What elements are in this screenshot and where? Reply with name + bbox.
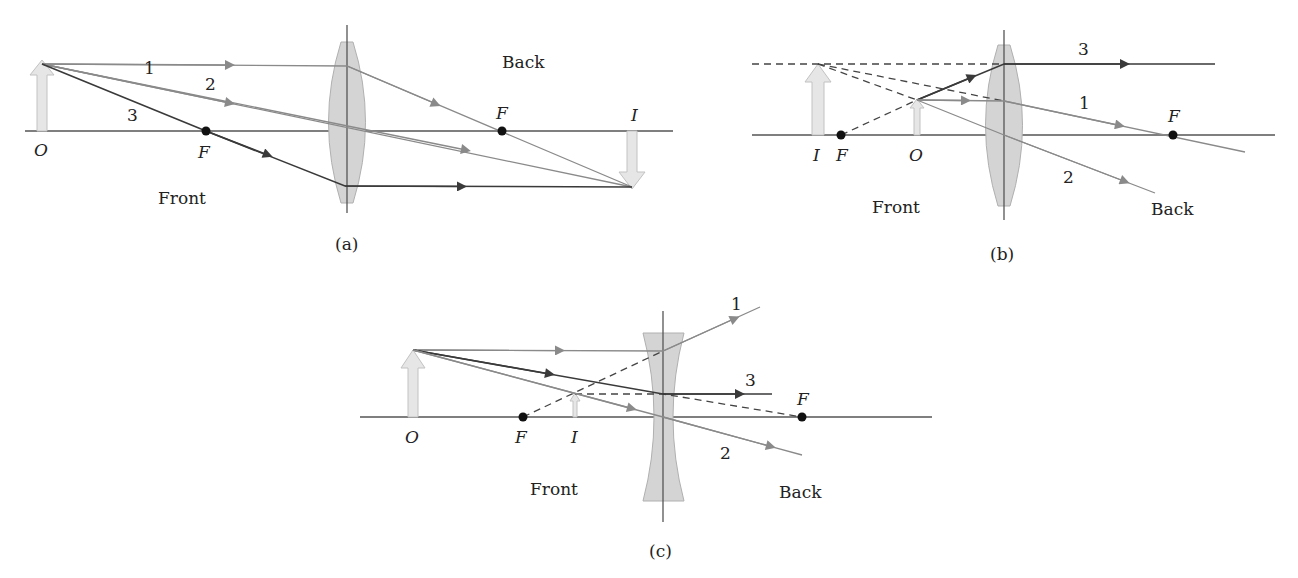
focal-label-front: F [835,145,849,165]
virtual-ray-extension [523,351,663,417]
ray-label-2: 2 [205,74,216,94]
focal-label-back: F [1167,106,1181,126]
object-arrow [910,99,924,135]
focal-point-front [519,413,528,422]
ray-1 [413,307,760,351]
focal-point-front [837,131,846,140]
object-label: O [405,427,419,447]
back-label: Back [779,482,822,502]
image-arrow [805,64,831,135]
focal-label-back: F [495,103,509,123]
ray-label-1: 1 [144,58,155,78]
ray-label-1: 1 [1079,93,1090,113]
ray-label-1: 1 [731,294,742,314]
ray-label-3: 3 [1078,39,1089,59]
panel-c: 1 3 2 O F I F Front Back (c) [360,294,932,561]
focal-point-back [1169,131,1178,140]
ray-3 [413,350,772,394]
lens-ray-diagrams: 1 2 3 O F F I Front Back (a) [0,0,1298,578]
image-label: I [570,427,578,447]
front-label: Front [158,188,206,208]
focal-point-back [798,413,807,422]
virtual-ray-extension [841,100,917,135]
virtual-ray-extension [818,64,917,100]
front-label: Front [872,197,920,217]
ray-label-2: 2 [1063,167,1074,187]
focal-label-front: F [197,142,211,162]
focal-point-back [498,127,507,136]
image-arrow [619,131,645,189]
object-label: O [909,145,923,165]
ray-label-3: 3 [745,370,756,390]
ray-label-3: 3 [127,105,138,125]
caption-c: (c) [649,541,672,561]
image-label: I [630,105,638,125]
caption-b: (b) [990,244,1014,264]
virtual-ray-extension [575,394,802,417]
image-arrow [570,393,580,417]
object-label: O [34,140,48,160]
caption-a: (a) [335,234,358,254]
focal-label-front: F [514,427,528,447]
panel-b: 3 1 2 I F O F Front Back (b) [752,30,1275,264]
object-arrow [30,60,54,131]
image-label: I [812,145,820,165]
back-label: Back [1151,199,1194,219]
focal-point-front [202,127,211,136]
virtual-ray-extension [818,64,1004,101]
front-label: Front [530,479,578,499]
back-label: Back [502,52,545,72]
ray-label-2: 2 [720,443,731,463]
object-arrow [401,350,425,417]
focal-label-back: F [796,389,810,409]
panel-a: 1 2 3 O F F I Front Back (a) [25,25,673,254]
